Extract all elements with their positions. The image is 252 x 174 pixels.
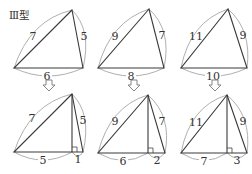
side-label-base-left: 7 bbox=[201, 155, 208, 168]
right-angle-mark bbox=[227, 148, 232, 153]
side-label-right: 7 bbox=[159, 29, 166, 42]
side-label-right: 9 bbox=[240, 115, 247, 128]
side-label-left: 9 bbox=[112, 115, 119, 128]
right-angle-mark bbox=[148, 148, 153, 153]
triangle-diagram: Ⅲ型 7 5 6 9 7 8 11 9 10 bbox=[0, 0, 252, 174]
triangle-outline bbox=[98, 95, 165, 153]
side-label-left: 11 bbox=[189, 116, 203, 129]
diagram-title: Ⅲ型 bbox=[9, 9, 29, 21]
top-triangle-2: 9 7 8 bbox=[98, 9, 166, 83]
side-label-left: 7 bbox=[30, 30, 37, 43]
side-label-base-left: 5 bbox=[40, 154, 47, 167]
side-label-right: 9 bbox=[240, 29, 247, 42]
bottom-triangle-3: 11 9 7 3 bbox=[181, 95, 248, 168]
bottom-triangle-1: 7 5 5 1 bbox=[14, 94, 87, 167]
side-label-left: 11 bbox=[189, 30, 203, 43]
side-label-right: 7 bbox=[159, 115, 166, 128]
bottom-triangle-2: 9 7 6 2 bbox=[98, 95, 167, 168]
side-label-base-right: 1 bbox=[75, 153, 82, 166]
right-angle-mark bbox=[72, 147, 77, 152]
side-label-right: 5 bbox=[80, 114, 87, 127]
side-label-right: 5 bbox=[81, 30, 88, 43]
side-label-left: 7 bbox=[29, 112, 36, 125]
top-triangle-3: 11 9 10 bbox=[181, 9, 248, 83]
side-label-base-left: 6 bbox=[120, 155, 127, 168]
side-label-base-right: 2 bbox=[154, 154, 161, 167]
triangle-outline bbox=[14, 94, 83, 152]
side-label-left: 9 bbox=[112, 30, 119, 43]
side-label-base-right: 3 bbox=[234, 154, 241, 167]
